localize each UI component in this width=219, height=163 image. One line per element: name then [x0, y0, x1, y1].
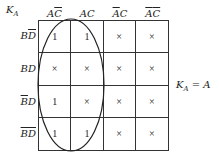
result-expression: KA = A: [176, 79, 211, 93]
